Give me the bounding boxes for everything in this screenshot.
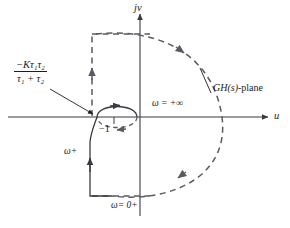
- critical-point-label: −1: [99, 124, 110, 135]
- small-loop-upper-solid: [97, 105, 137, 117]
- gain-numerator: −Kτ₁τ₂: [14, 59, 47, 72]
- gain-label-leader-line: [50, 89, 93, 114]
- gain-denominator: τ₁ + τ₂: [14, 72, 47, 84]
- gain-crossing-label: −Kτ₁τ₂ τ₁ + τ₂: [14, 59, 47, 84]
- omega-infinity-label: ω = +∞: [152, 99, 183, 109]
- gh-plane-label: GH(s)-plane: [213, 83, 263, 94]
- large-dashed-arc: [96, 33, 223, 197]
- nyquist-diagram-figure: −Kτ₁τ₂ τ₁ + τ₂ jv u GH(s)-plane ω = +∞ ω…: [0, 0, 290, 228]
- real-axis-label: u: [274, 110, 279, 121]
- nyquist-plot-svg: [0, 0, 290, 228]
- imaginary-axis-label: jv: [134, 2, 142, 13]
- omega-plus-label: ω+: [64, 147, 77, 157]
- gh-plane-prefix: GH(s): [213, 82, 238, 93]
- gh-plane-suffix: -plane: [238, 82, 263, 93]
- omega-zero-plus-label: ω= 0+: [111, 201, 138, 211]
- dashed-rectangle-contour: [92, 34, 150, 196]
